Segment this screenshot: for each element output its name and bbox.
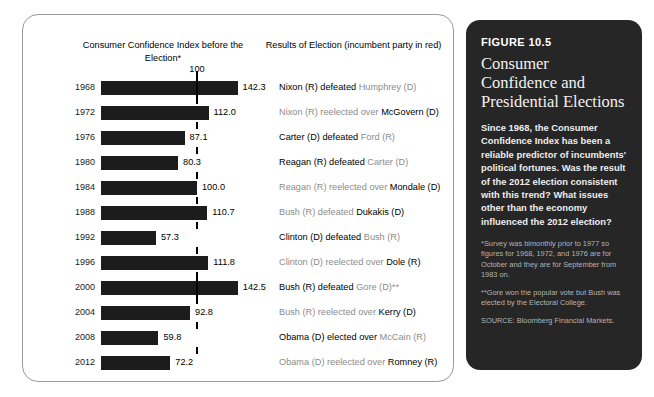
figure-title: Consumer Confidence and Presidential Ele… [481, 54, 627, 111]
chart-row: 1988110.7Bush (R) defeated Dukakis (D) [23, 202, 453, 227]
row-year-label: 1984 [55, 182, 95, 192]
row-year-label: 1980 [55, 157, 95, 167]
result-winner: Clinton (D) defeated [279, 232, 364, 242]
row-year-label: 1972 [55, 107, 95, 117]
bar-1992 [101, 231, 156, 245]
chart-row: 201272.2Obama (D) reelected over Romney … [23, 352, 453, 377]
election-result-text: Nixon (R) reelected over McGovern (D) [279, 107, 439, 117]
bar-value-label: 110.7 [212, 207, 234, 217]
bar-value-label: 59.8 [163, 332, 181, 342]
bar-value-label: 80.3 [183, 157, 201, 167]
election-result-text: Reagan (R) defeated Carter (D) [279, 157, 408, 167]
bar-1972 [101, 106, 209, 120]
result-loser: Romney (R) [388, 357, 438, 367]
bar-value-label: 72.2 [175, 357, 193, 367]
result-loser: Kerry (D) [379, 307, 416, 317]
bar-1980 [101, 156, 178, 170]
result-loser: McGovern (D) [381, 107, 439, 117]
axis-line-segment [196, 197, 198, 204]
election-result-text: Clinton (D) reelected over Dole (R) [279, 257, 420, 267]
row-year-label: 2000 [55, 282, 95, 292]
bar-value-label: 100.0 [202, 182, 225, 192]
axis-line-segment [196, 147, 198, 154]
axis-line-segment [196, 347, 198, 354]
row-year-label: 1968 [55, 82, 95, 92]
result-loser: Gore (D)** [356, 282, 399, 292]
axis-line-segment [196, 272, 198, 304]
bar-1996 [101, 256, 208, 270]
result-loser: Ford (R) [361, 132, 395, 142]
result-winner: Carter (D) defeated [279, 132, 361, 142]
result-winner: Obama (D) elected over [279, 332, 380, 342]
result-loser: Humphrey (D) [359, 82, 417, 92]
election-result-text: Bush (R) reelected over Kerry (D) [279, 307, 416, 317]
bar-1988 [101, 206, 207, 220]
bar-value-label: 142.3 [243, 82, 266, 92]
chart-row: 1996111.8Clinton (D) reelected over Dole… [23, 252, 453, 277]
row-year-label: 1992 [55, 232, 95, 242]
chart-card: Consumer Confidence Index before the Ele… [22, 14, 454, 382]
result-winner: Clinton (D) reelected over [279, 257, 386, 267]
figure-footnote-survey: *Survey was bimonthly prior to 1977 so f… [481, 239, 627, 280]
result-winner: Reagan (R) reelected over [279, 182, 390, 192]
election-result-text: Nixon (R) defeated Humphrey (D) [279, 82, 416, 92]
bar-value-label: 57.3 [161, 232, 179, 242]
result-loser: Carter (D) [367, 157, 408, 167]
figure-screenshot: Consumer Confidence Index before the Ele… [0, 0, 654, 397]
row-year-label: 2004 [55, 307, 95, 317]
result-loser: Dukakis (D) [356, 207, 404, 217]
bar-value-label: 142.5 [243, 282, 266, 292]
axis-line-segment [196, 172, 198, 179]
chart-row: 200859.8Obama (D) elected over McCain (R… [23, 327, 453, 352]
result-loser: Dole (R) [386, 257, 420, 267]
result-loser: Mondale (D) [390, 182, 441, 192]
row-year-label: 2012 [55, 357, 95, 367]
election-result-text: Obama (D) elected over McCain (R) [279, 332, 426, 342]
axis-line-segment [196, 71, 198, 104]
figure-body-text: Since 1968, the Consumer Confidence Inde… [481, 121, 627, 228]
result-winner: Obama (D) reelected over [279, 357, 388, 367]
bar-2012 [101, 356, 170, 370]
chart-row: 199257.3Clinton (D) defeated Bush (R) [23, 227, 453, 252]
result-loser: McCain (R) [380, 332, 426, 342]
bar-value-label: 112.0 [214, 107, 236, 117]
bar-value-label: 87.1 [190, 132, 208, 142]
chart-row: 198080.3Reagan (R) defeated Carter (D) [23, 152, 453, 177]
result-winner: Bush (R) reelected over [279, 307, 379, 317]
bar-value-label: 92.8 [195, 307, 213, 317]
row-year-label: 1988 [55, 207, 95, 217]
chart-rows: 1968142.3Nixon (R) defeated Humphrey (D)… [23, 15, 453, 381]
row-year-label: 2008 [55, 332, 95, 342]
election-result-text: Bush (R) defeated Gore (D)** [279, 282, 399, 292]
bar-1968 [101, 81, 238, 95]
result-winner: Reagan (R) defeated [279, 157, 367, 167]
bar-2008 [101, 331, 158, 345]
result-winner: Nixon (R) reelected over [279, 107, 381, 117]
result-winner: Bush (R) defeated [279, 207, 356, 217]
bar-value-label: 111.8 [213, 257, 235, 267]
axis-line-segment [196, 222, 198, 229]
chart-row: 1972112.0Nixon (R) reelected over McGove… [23, 102, 453, 127]
figure-footnote-gore: **Gore won the popular vote but Bush was… [481, 288, 627, 308]
figure-number: FIGURE 10.5 [481, 36, 627, 48]
election-result-text: Clinton (D) defeated Bush (R) [279, 232, 400, 242]
figure-caption-panel: FIGURE 10.5 Consumer Confidence and Pres… [466, 20, 642, 370]
row-year-label: 1996 [55, 257, 95, 267]
bar-1976 [101, 131, 185, 145]
chart-row: 1968142.3Nixon (R) defeated Humphrey (D) [23, 77, 453, 102]
result-winner: Bush (R) defeated [279, 282, 356, 292]
axis-line-segment [196, 322, 198, 329]
row-year-label: 1976 [55, 132, 95, 142]
election-result-text: Obama (D) reelected over Romney (R) [279, 357, 437, 367]
chart-row: 197687.1Carter (D) defeated Ford (R) [23, 127, 453, 152]
axis-line-segment [196, 122, 198, 129]
result-loser: Bush (R) [364, 232, 400, 242]
chart-row: 200492.8Bush (R) reelected over Kerry (D… [23, 302, 453, 327]
chart-row: 1984100.0Reagan (R) reelected over Monda… [23, 177, 453, 202]
axis-line-segment [196, 247, 198, 254]
election-result-text: Bush (R) defeated Dukakis (D) [279, 207, 404, 217]
bar-2000 [101, 281, 238, 295]
bar-2004 [101, 306, 190, 320]
bar-1984 [101, 181, 197, 195]
chart-row: 2000142.5Bush (R) defeated Gore (D)** [23, 277, 453, 302]
